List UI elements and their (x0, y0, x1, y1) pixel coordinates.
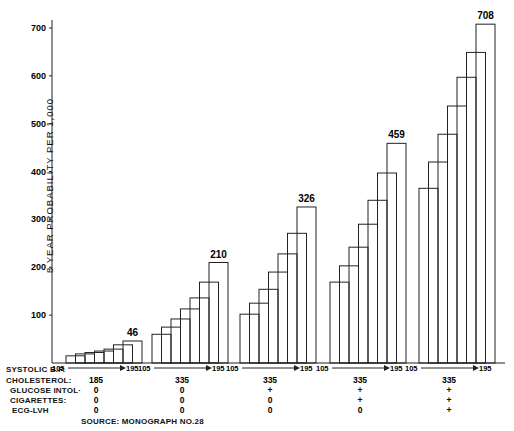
factor-value: + (447, 385, 452, 395)
bar-value-label: 459 (388, 129, 405, 140)
row-label-glucose: GLUCOSE INTOL· (10, 386, 81, 395)
factor-value: 185 (89, 375, 103, 385)
source-note: SOURCE: MONOGRAPH NO.28 (81, 417, 204, 426)
row-label-ecg: ECG-LVH (12, 406, 49, 415)
sbp-end: 195 (126, 364, 139, 373)
row-label-cholesterol: CHOLESTEROL: (6, 376, 72, 385)
factor-value: + (447, 395, 452, 405)
row-label-sbp: SYSTOLIC B.P. (6, 365, 65, 374)
sbp-start: 105 (226, 364, 239, 373)
factor-value: 0 (268, 405, 273, 415)
sbp-end: 195 (390, 364, 403, 373)
factor-value: 0 (94, 405, 99, 415)
sbp-end: 195 (300, 364, 313, 373)
factor-value: 0 (94, 385, 99, 395)
factor-value: 335 (442, 375, 456, 385)
chart-canvas: 1002003004005006007004610519518500021010… (0, 0, 514, 431)
y-tick-label: 700 (31, 23, 46, 33)
row-label-cigarettes: CIGARETTES: (10, 396, 66, 405)
factor-value: 0 (180, 405, 185, 415)
factor-value: + (268, 385, 273, 395)
factor-value: 0 (180, 385, 185, 395)
y-tick-label: 600 (31, 71, 46, 81)
factor-value: 335 (175, 375, 189, 385)
factor-value: 0 (268, 395, 273, 405)
bar-value-label: 326 (298, 193, 315, 204)
factor-value: 335 (353, 375, 367, 385)
sbp-end: 195 (212, 364, 225, 373)
sbp-start: 105 (316, 364, 329, 373)
bar-value-label: 708 (477, 10, 494, 21)
sbp-start: 105 (405, 364, 418, 373)
factor-value: + (358, 395, 363, 405)
sbp-start: 105 (138, 364, 151, 373)
factor-value: + (358, 385, 363, 395)
bar-value-label: 210 (210, 249, 227, 260)
factor-value: 0 (180, 395, 185, 405)
factor-value: 335 (263, 375, 277, 385)
factor-value: 0 (94, 395, 99, 405)
bar-value-label: 46 (127, 327, 139, 338)
y-tick-label: 100 (31, 310, 46, 320)
sbp-end: 195 (479, 364, 492, 373)
y-axis-label: 8 YEAR PROBABILITY PER 1,000 (44, 98, 55, 273)
factor-value: 0 (358, 405, 363, 415)
risk-chart: 1002003004005006007004610519518500021010… (0, 0, 514, 431)
factor-value: + (447, 405, 452, 415)
